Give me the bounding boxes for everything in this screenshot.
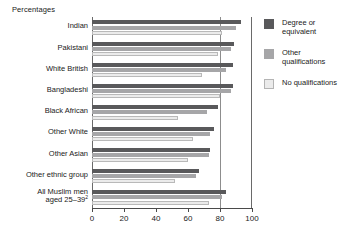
bar xyxy=(92,63,233,67)
bar-group xyxy=(92,169,252,183)
chart-title: Percentages xyxy=(12,5,55,14)
bar xyxy=(92,31,222,35)
bar xyxy=(92,94,220,98)
bar xyxy=(92,201,209,205)
bar-group xyxy=(92,63,252,77)
bar-group xyxy=(92,127,252,141)
bar xyxy=(92,20,241,24)
category-label: Black African xyxy=(0,107,88,116)
bar xyxy=(92,116,178,120)
bar xyxy=(92,110,207,114)
bar xyxy=(92,26,236,30)
bar xyxy=(92,89,231,93)
bar-group xyxy=(92,84,252,98)
x-tick-label: 40 xyxy=(152,214,161,223)
category-label: All Muslim menaged 25–392 xyxy=(0,188,88,205)
x-tick xyxy=(252,208,253,212)
x-tick-label: 0 xyxy=(90,214,94,223)
bar xyxy=(92,52,218,56)
bar xyxy=(92,153,209,157)
category-label: Bangladeshi xyxy=(0,86,88,95)
category-label: Other ethnic group xyxy=(0,171,88,180)
x-tick xyxy=(188,208,189,212)
bar-group xyxy=(92,20,252,34)
bar xyxy=(92,127,214,131)
x-tick-label: 20 xyxy=(120,214,129,223)
bar xyxy=(92,42,234,46)
bar xyxy=(92,132,210,136)
x-tick xyxy=(220,208,221,212)
bar xyxy=(92,169,199,173)
x-tick xyxy=(124,208,125,212)
bar xyxy=(92,137,193,141)
bar-group xyxy=(92,190,252,204)
bar xyxy=(92,158,188,162)
category-label: Other White xyxy=(0,128,88,137)
category-label: White British xyxy=(0,65,88,74)
bar xyxy=(92,105,218,109)
bar xyxy=(92,190,226,194)
x-tick xyxy=(92,208,93,212)
legend-item: Other qualifications xyxy=(264,48,354,66)
bar-chart: Percentages IndianPakistaniWhite British… xyxy=(0,0,354,233)
x-axis-line xyxy=(92,208,252,209)
x-tick-label: 80 xyxy=(216,214,225,223)
bar-group xyxy=(92,105,252,119)
bar xyxy=(92,73,202,77)
bar xyxy=(92,68,226,72)
x-tick-label: 60 xyxy=(184,214,193,223)
legend-label: Degree or equivalent xyxy=(282,18,354,36)
legend-label: Other qualifications xyxy=(282,48,354,66)
bar xyxy=(92,195,222,199)
bar-group xyxy=(92,42,252,56)
legend-swatch xyxy=(264,19,274,29)
plot-area xyxy=(92,17,252,208)
legend-label: No qualifications xyxy=(282,78,354,87)
bar xyxy=(92,179,175,183)
x-tick-label: 100 xyxy=(245,214,258,223)
bar-group xyxy=(92,148,252,162)
bar xyxy=(92,174,196,178)
chart-legend: Degree or equivalentOther qualifications… xyxy=(264,18,354,108)
legend-item: Degree or equivalent xyxy=(264,18,354,36)
legend-item: No qualifications xyxy=(264,78,354,96)
bar xyxy=(92,47,231,51)
legend-swatch xyxy=(264,79,274,89)
category-label: Indian xyxy=(0,22,88,31)
category-label: Pakistani xyxy=(0,44,88,53)
bar xyxy=(92,148,210,152)
legend-swatch xyxy=(264,49,274,59)
category-label: Other Asian xyxy=(0,150,88,159)
bar xyxy=(92,84,233,88)
x-tick xyxy=(156,208,157,212)
